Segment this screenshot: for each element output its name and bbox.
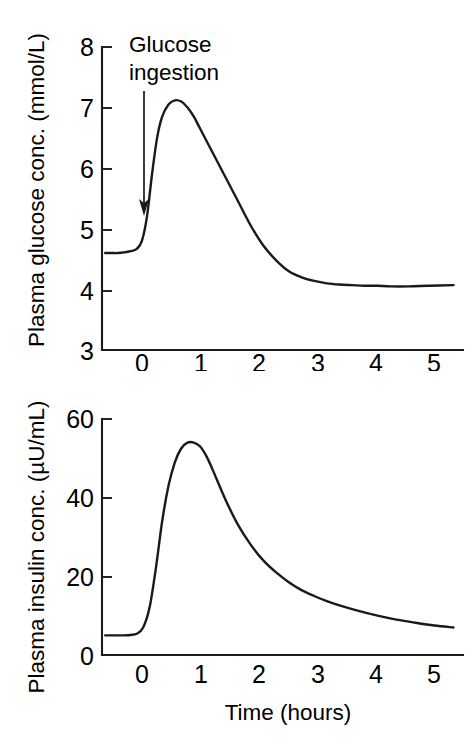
- insulin-ytick-60: 60: [66, 405, 94, 433]
- glucose-xtick-0: 0: [135, 349, 149, 371]
- insulin-ytick-20: 20: [66, 563, 94, 591]
- insulin-xtick-4: 4: [369, 660, 383, 688]
- glucose-ingestion-annotation-line2: ingestion: [129, 60, 219, 85]
- insulin-xtick-3: 3: [311, 660, 325, 688]
- glucose-ytick-6: 6: [80, 155, 94, 183]
- glucose-ytick-7: 7: [80, 94, 94, 122]
- glucose-y-ticks: [102, 47, 112, 291]
- insulin-x-axis-title: Time (hours): [225, 700, 352, 725]
- insulin-ytick-0: 0: [80, 642, 94, 670]
- glucose-y-axis-title: Plasma glucose conc. (mmol/L): [24, 33, 49, 347]
- glucose-xtick-3: 3: [311, 349, 325, 371]
- figure-container: Plasma glucose conc. (mmol/L) 8 7 6 5 4 …: [0, 0, 470, 742]
- glucose-xtick-2: 2: [252, 349, 266, 371]
- insulin-y-ticks: [102, 419, 112, 577]
- glucose-chart-svg: Plasma glucose conc. (mmol/L) 8 7 6 5 4 …: [0, 0, 470, 371]
- insulin-xtick-2: 2: [252, 660, 266, 688]
- glucose-data-curve: [105, 100, 453, 286]
- glucose-ingestion-arrow-icon: [139, 91, 149, 216]
- insulin-chart-panel: Plasma insulin conc. (µU/mL) 60 40 20 0 …: [0, 371, 470, 742]
- glucose-xtick-5: 5: [427, 349, 441, 371]
- glucose-ytick-3: 3: [80, 337, 94, 365]
- insulin-xtick-0: 0: [135, 660, 149, 688]
- glucose-xtick-1: 1: [194, 349, 208, 371]
- insulin-ytick-40: 40: [66, 484, 94, 512]
- insulin-xtick-1: 1: [194, 660, 208, 688]
- glucose-ytick-8: 8: [80, 33, 94, 61]
- insulin-xtick-5: 5: [427, 660, 441, 688]
- glucose-chart-panel: Plasma glucose conc. (mmol/L) 8 7 6 5 4 …: [0, 0, 470, 371]
- insulin-chart-svg: Plasma insulin conc. (µU/mL) 60 40 20 0 …: [0, 371, 470, 742]
- insulin-data-curve: [105, 442, 453, 635]
- glucose-ytick-5: 5: [80, 216, 94, 244]
- glucose-ytick-4: 4: [80, 277, 94, 305]
- insulin-y-axis-title: Plasma insulin conc. (µU/mL): [24, 400, 49, 693]
- glucose-xtick-4: 4: [369, 349, 383, 371]
- glucose-ingestion-annotation-line1: Glucose: [129, 32, 212, 57]
